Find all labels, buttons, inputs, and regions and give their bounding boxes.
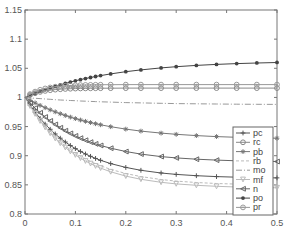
data-point-po bbox=[84, 77, 88, 81]
data-point-po bbox=[109, 72, 113, 76]
data-point-pr-center bbox=[34, 91, 36, 93]
data-point-pr-center bbox=[44, 88, 46, 90]
data-point-pb bbox=[93, 121, 98, 126]
data-point-pr-center bbox=[110, 84, 112, 86]
legend-marker-center bbox=[242, 207, 244, 209]
data-point-po bbox=[235, 62, 239, 66]
data-point-pr-center bbox=[59, 85, 61, 87]
data-point-pr-center bbox=[216, 84, 218, 86]
data-point-pr-center bbox=[196, 84, 198, 86]
data-point-po bbox=[74, 79, 78, 83]
data-point-po bbox=[99, 74, 103, 78]
data-point-pb bbox=[73, 116, 78, 121]
y-tick-label: 1.15 bbox=[4, 5, 22, 15]
x-tick-label: 0.4 bbox=[220, 218, 233, 228]
data-point-pb bbox=[58, 111, 63, 116]
data-point-pb bbox=[48, 107, 53, 112]
data-point-pr-center bbox=[54, 86, 56, 88]
data-point-pb bbox=[98, 122, 103, 127]
data-point-pr-center bbox=[29, 93, 31, 95]
x-tick-label: 0.3 bbox=[170, 218, 183, 228]
data-point-pb bbox=[275, 136, 280, 141]
data-point-pr-center bbox=[256, 84, 258, 86]
data-point-pb bbox=[214, 134, 219, 139]
data-point-pb bbox=[78, 118, 83, 123]
data-point-pb bbox=[83, 119, 88, 124]
y-tick-label: 0.95 bbox=[4, 122, 22, 132]
data-point-po bbox=[79, 78, 83, 82]
data-point-pr-center bbox=[65, 85, 67, 87]
y-tick-label: 0.8 bbox=[9, 209, 22, 219]
data-point-pr-center bbox=[39, 89, 41, 91]
y-tick-label: 1 bbox=[17, 92, 22, 102]
data-point-pr-center bbox=[276, 84, 278, 86]
legend-marker bbox=[241, 149, 246, 154]
data-point-po bbox=[139, 68, 143, 72]
data-point-pb bbox=[63, 113, 68, 118]
data-point-pr-center bbox=[80, 84, 82, 86]
data-point-pb bbox=[43, 105, 48, 110]
y-tick-label: 1.1 bbox=[9, 34, 22, 44]
data-point-po bbox=[194, 64, 198, 68]
data-point-pb bbox=[38, 103, 43, 108]
legend: pcrcpbrbmomfnpopr bbox=[233, 127, 273, 215]
data-point-pr-center bbox=[125, 84, 127, 86]
data-point-pb bbox=[88, 120, 93, 125]
x-tick-label: 0.5 bbox=[271, 218, 284, 228]
data-point-pb bbox=[33, 101, 38, 106]
y-tick-label: 0.85 bbox=[4, 180, 22, 190]
data-point-pr-center bbox=[70, 85, 72, 87]
data-point-pr-center bbox=[95, 84, 97, 86]
data-point-pr-center bbox=[100, 84, 102, 86]
y-tick-label: 0.9 bbox=[9, 151, 22, 161]
data-point-po bbox=[255, 61, 259, 65]
data-point-pr-center bbox=[85, 84, 87, 86]
data-point-po bbox=[89, 76, 93, 80]
data-point-pr-center bbox=[49, 87, 51, 89]
legend-label: pr bbox=[253, 202, 261, 212]
data-point-pb bbox=[139, 129, 144, 134]
data-point-pr-center bbox=[75, 84, 77, 86]
data-point-pb bbox=[194, 133, 199, 138]
data-point-pb bbox=[159, 131, 164, 136]
data-point-pb bbox=[123, 127, 128, 132]
y-tick-label: 1.05 bbox=[4, 63, 22, 73]
data-point-pb bbox=[68, 115, 73, 120]
data-point-po bbox=[174, 65, 178, 69]
data-point-po bbox=[94, 75, 98, 79]
x-tick-label: 0.2 bbox=[120, 218, 133, 228]
data-point-pr-center bbox=[236, 84, 238, 86]
data-point-po bbox=[275, 61, 279, 65]
x-tick-label: 0 bbox=[22, 218, 27, 228]
data-point-po bbox=[159, 66, 163, 70]
data-point-pr-center bbox=[160, 84, 162, 86]
data-point-pb bbox=[108, 124, 113, 129]
data-point-po bbox=[215, 62, 219, 66]
data-point-pb bbox=[53, 109, 58, 114]
x-tick-label: 0.1 bbox=[69, 218, 82, 228]
legend-marker bbox=[241, 196, 245, 200]
data-point-pb bbox=[174, 132, 179, 137]
data-point-pr-center bbox=[175, 84, 177, 86]
data-point-pr-center bbox=[90, 84, 92, 86]
line-chart: 00.10.20.30.40.50.80.850.90.9511.051.11.… bbox=[0, 0, 286, 245]
data-point-pr-center bbox=[140, 84, 142, 86]
data-point-po bbox=[124, 70, 128, 74]
